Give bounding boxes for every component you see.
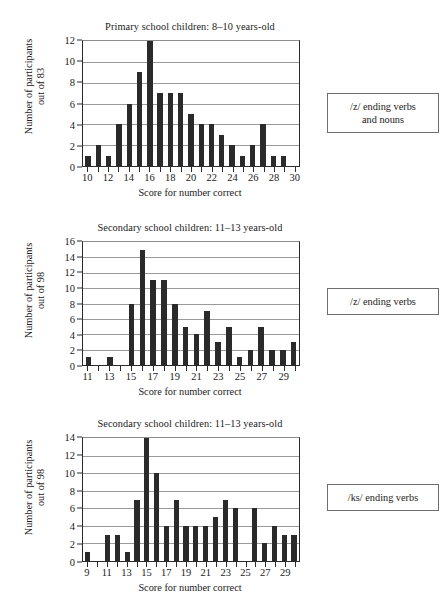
x-tick-label: 9 — [84, 567, 89, 578]
x-tick-label: 11 — [82, 371, 92, 382]
bar-slot — [83, 438, 93, 561]
y-axis-label: Number of participants out of 83 — [23, 14, 46, 159]
bar-slot — [152, 438, 162, 561]
y-tick-label: 12 — [65, 449, 76, 460]
x-tick-label: 13 — [121, 567, 132, 578]
bar-slot — [83, 242, 94, 365]
x-tick-mark — [164, 366, 165, 371]
bar-slot — [169, 242, 180, 365]
bar — [280, 350, 286, 365]
chart-title: Secondary school children: 11–13 years-o… — [55, 418, 325, 429]
chart-panel-2: Secondary school children: 11–13 years-o… — [0, 203, 446, 403]
bar-slot — [268, 41, 278, 166]
x-tick-mark — [201, 167, 202, 172]
x-tick-mark — [109, 366, 110, 371]
bar — [209, 124, 214, 166]
bar-slot — [289, 41, 299, 166]
bar — [129, 304, 135, 366]
bar — [229, 145, 234, 166]
x-tick-mark — [196, 562, 197, 567]
y-tick-label: 4 — [70, 521, 75, 532]
bar-slot — [104, 41, 114, 166]
x-tick-mark — [175, 366, 176, 371]
bar-slot — [137, 242, 148, 365]
x-tick-mark — [218, 366, 219, 371]
bar — [161, 280, 167, 365]
x-tick-label: 22 — [207, 172, 218, 183]
bar-slot — [248, 41, 258, 166]
x-tick-mark — [87, 366, 88, 371]
x-tick-label: 25 — [235, 371, 246, 382]
bar-slot — [277, 242, 288, 365]
chart-panel-1: Primary school children: 8–10 years-old … — [0, 0, 446, 205]
bar-slot — [202, 242, 213, 365]
bar-slot — [103, 438, 113, 561]
x-tick-label: 11 — [102, 567, 112, 578]
legend-box: /z/ ending verbs and nouns — [327, 93, 439, 133]
bar-slot — [260, 438, 270, 561]
bar-slot — [155, 41, 165, 166]
x-tick-mark — [186, 562, 187, 567]
x-tick-mark — [98, 167, 99, 172]
bar-slot — [245, 242, 256, 365]
bar-slot — [220, 438, 230, 561]
x-tick-label: 20 — [186, 172, 197, 183]
plot-area — [82, 437, 300, 562]
x-tick-mark — [127, 562, 128, 567]
bar-slot — [191, 438, 201, 561]
bar-slot — [124, 41, 134, 166]
x-axis-label: Score for number correct — [55, 582, 325, 593]
legend-line2: and nouns — [335, 113, 431, 126]
bar — [291, 342, 297, 365]
bar-slot — [145, 41, 155, 166]
bar — [106, 156, 111, 166]
x-tick-label: 26 — [248, 172, 259, 183]
bar — [271, 156, 276, 166]
x-tick-mark — [107, 562, 108, 567]
bar-slot — [159, 242, 170, 365]
x-axis-tick-labels: 11131517192123252729 — [82, 371, 300, 387]
y-tick-label: 0 — [70, 162, 75, 173]
bar — [125, 552, 130, 561]
bar-slot — [162, 438, 172, 561]
bar — [282, 535, 287, 561]
bar-slot — [278, 41, 288, 166]
legend-box: /ks/ ending verbs — [327, 484, 439, 511]
x-tick-mark — [176, 562, 177, 567]
bar-slot — [132, 438, 142, 561]
x-tick-mark — [295, 366, 296, 371]
y-axis-label-line1: Number of participants — [23, 218, 35, 363]
x-tick-label: 14 — [123, 172, 134, 183]
x-tick-label: 24 — [227, 172, 238, 183]
bar-slot — [196, 41, 206, 166]
bar-slot — [93, 41, 103, 166]
y-tick-label: 0 — [70, 557, 75, 568]
bar — [281, 156, 286, 166]
y-axis-label-line1: Number of participants — [23, 14, 35, 159]
legend-line1: /ks/ ending verbs — [348, 492, 418, 503]
y-axis-label-line1: Number of participants — [23, 415, 35, 560]
y-tick-label: 8 — [70, 298, 75, 309]
y-tick-label: 2 — [70, 539, 75, 550]
bar — [226, 327, 232, 365]
plot-area — [82, 40, 300, 167]
bar-slot — [206, 41, 216, 166]
x-tick-label: 18 — [165, 172, 176, 183]
x-tick-label: 23 — [213, 371, 224, 382]
x-tick-mark — [131, 366, 132, 371]
x-tick-mark — [160, 167, 161, 172]
x-tick-mark — [118, 167, 119, 172]
x-tick-mark — [191, 167, 192, 172]
bar-slot — [269, 438, 279, 561]
y-tick-label: 6 — [70, 503, 75, 514]
x-tick-mark — [240, 366, 241, 371]
x-tick-label: 13 — [104, 371, 115, 382]
bar — [85, 552, 90, 561]
y-tick-label: 10 — [65, 467, 76, 478]
bar — [291, 535, 296, 561]
y-axis-ticks: 024681012 — [56, 40, 82, 167]
x-tick-mark — [207, 366, 208, 371]
bar-slot — [191, 242, 202, 365]
bar — [194, 334, 200, 365]
bar-slot — [267, 242, 278, 365]
